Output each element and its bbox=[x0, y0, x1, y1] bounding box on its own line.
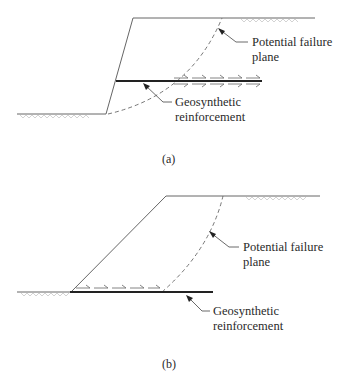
reinforcement-label-a-2: reinforcement bbox=[175, 110, 246, 124]
reinforcement-leader-a bbox=[143, 83, 172, 102]
soil-hatch-left-a bbox=[20, 115, 89, 118]
failure-plane-label-a-2: plane bbox=[252, 50, 280, 64]
caption-b: (b) bbox=[162, 357, 176, 371]
failure-plane-label-b-1: Potential failure bbox=[243, 240, 324, 254]
caption-a: (a) bbox=[162, 152, 175, 166]
shear-arrows-b bbox=[76, 285, 160, 288]
slope-face-b bbox=[71, 196, 166, 292]
geosynthetic-diagram: Potential failure plane Geosynthetic rei… bbox=[0, 0, 339, 382]
failure-plane-label-a-1: Potential failure bbox=[252, 35, 333, 49]
panel-b: Potential failure plane Geosynthetic rei… bbox=[17, 196, 324, 371]
failure-plane-label-b-2: plane bbox=[243, 255, 271, 269]
reinforcement-label-b-2: reinforcement bbox=[213, 319, 284, 333]
failure-plane-leader-a bbox=[218, 28, 248, 42]
wall-face-a bbox=[106, 18, 133, 114]
panel-a: Potential failure plane Geosynthetic rei… bbox=[17, 18, 333, 166]
soil-hatch-left-b bbox=[21, 293, 69, 296]
reinforcement-leader-b bbox=[186, 295, 210, 311]
reinforcement-label-b-1: Geosynthetic bbox=[213, 304, 279, 318]
failure-plane-leader-b bbox=[209, 231, 239, 247]
soil-hatch-top-b bbox=[246, 197, 306, 200]
reinforcement-label-a-1: Geosynthetic bbox=[175, 95, 241, 109]
failure-plane-b bbox=[162, 196, 223, 292]
soil-hatch-top-a bbox=[241, 19, 298, 22]
